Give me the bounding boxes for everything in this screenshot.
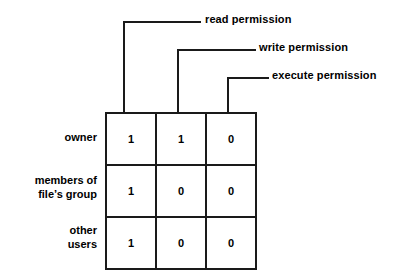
- leader-line-read-vertical: [123, 21, 125, 112]
- row-label-group-line-2: file’s group: [0, 187, 97, 201]
- permission-cell: 1: [106, 165, 156, 217]
- table-row: 1 0 0: [106, 217, 256, 269]
- leader-line-read-horizontal: [123, 21, 201, 23]
- leader-line-execute-vertical: [227, 77, 229, 112]
- permission-cell: 1: [106, 217, 156, 269]
- leader-line-write-vertical: [177, 49, 179, 112]
- permission-cell: 1: [106, 113, 156, 165]
- permission-cell: 0: [156, 165, 206, 217]
- row-label-owner-line-1: owner: [0, 130, 97, 144]
- permission-cell: 0: [206, 217, 256, 269]
- leader-line-execute-horizontal: [227, 77, 269, 79]
- row-label-group-line-1: members of: [0, 173, 97, 187]
- callout-label-write: write permission: [259, 41, 348, 54]
- permission-cell: 0: [156, 217, 206, 269]
- permission-cell: 1: [156, 113, 206, 165]
- row-label-other-line-1: other: [0, 223, 97, 237]
- row-label-other: other users: [0, 223, 97, 251]
- row-label-other-line-2: users: [0, 237, 97, 251]
- permission-cell: 0: [206, 165, 256, 217]
- permission-cell: 0: [206, 113, 256, 165]
- row-label-group: members of file’s group: [0, 173, 97, 201]
- callout-label-read: read permission: [205, 13, 291, 26]
- permission-matrix: 1 1 0 1 0 0 1 0 0: [105, 112, 257, 270]
- permission-bits-diagram: read permission write permission execute…: [0, 0, 409, 277]
- table-row: 1 1 0: [106, 113, 256, 165]
- row-label-owner: owner: [0, 130, 97, 144]
- leader-line-write-horizontal: [177, 49, 256, 51]
- table-row: 1 0 0: [106, 165, 256, 217]
- callout-label-execute: execute permission: [272, 69, 377, 82]
